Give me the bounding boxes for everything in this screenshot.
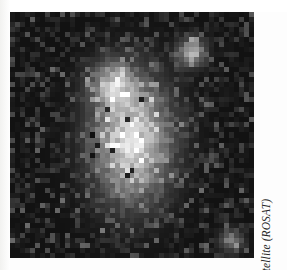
- figure-root: Roentgen Satellite (ROSAT): [0, 0, 287, 270]
- figure-caption: Roentgen Satellite (ROSAT): [260, 198, 272, 270]
- xray-heatmap-canvas: [10, 12, 254, 258]
- page-left-margin: [0, 0, 10, 270]
- caption-strip: Roentgen Satellite (ROSAT): [256, 12, 287, 270]
- page-top-margin: [0, 0, 287, 12]
- xray-image-frame: [10, 12, 254, 258]
